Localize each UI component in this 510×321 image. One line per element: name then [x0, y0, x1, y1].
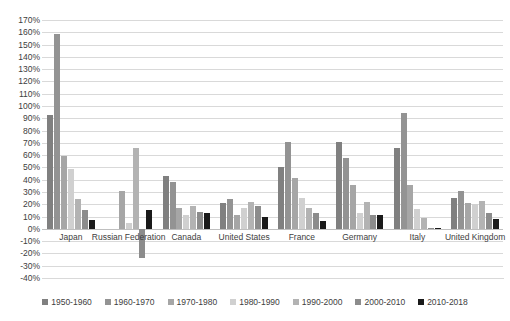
bar: [336, 142, 342, 229]
legend-swatch-icon: [418, 299, 424, 305]
legend-label: 1970-1980: [177, 297, 218, 307]
bar: [343, 158, 349, 229]
bar: [486, 213, 492, 229]
x-axis-category-label: Canada: [171, 231, 201, 243]
y-axis-tick-label: 130%: [0, 65, 40, 74]
bar: [183, 215, 189, 229]
bar: [435, 228, 441, 229]
y-axis-tick-label: 120%: [0, 77, 40, 86]
bar: [350, 185, 356, 229]
legend-item[interactable]: 1970-1980: [168, 297, 218, 307]
bar: [204, 213, 210, 229]
y-axis-tick-label: 90%: [0, 114, 40, 123]
legend-swatch-icon: [42, 299, 48, 305]
legend-item[interactable]: 1990-2000: [293, 297, 343, 307]
bar: [394, 148, 400, 229]
bar: [220, 203, 226, 229]
legend-item[interactable]: 1980-1990: [230, 297, 280, 307]
bar: [248, 202, 254, 229]
bar: [82, 210, 88, 228]
legend-label: 1980-1990: [239, 297, 280, 307]
bar: [176, 208, 182, 229]
y-axis-tick-label: 160%: [0, 28, 40, 37]
bar: [278, 167, 284, 228]
bar: [458, 191, 464, 229]
legend-swatch-icon: [355, 299, 361, 305]
bar: [451, 198, 457, 229]
bar: [47, 115, 53, 229]
bar: [377, 215, 383, 229]
bar: [54, 34, 60, 229]
x-axis-category-label: Russian Federation: [92, 231, 166, 243]
x-axis-category-label: Japan: [59, 231, 82, 243]
legend-item[interactable]: 1960-1970: [105, 297, 155, 307]
legend-item[interactable]: 2010-2018: [418, 297, 468, 307]
bar: [414, 209, 420, 229]
bar: [170, 182, 176, 229]
y-axis-tick-label: 70%: [0, 138, 40, 147]
bar: [75, 199, 81, 228]
y-axis-tick-label: 170%: [0, 16, 40, 25]
y-axis-tick-label: 110%: [0, 89, 40, 98]
y-axis-tick-label: -30%: [0, 261, 40, 270]
bar: [421, 218, 427, 229]
y-axis-tick-label: -40%: [0, 274, 40, 283]
bar: [119, 191, 125, 229]
bar: [241, 208, 247, 229]
bar: [68, 169, 74, 229]
bar: [364, 202, 370, 229]
y-axis-tick-label: 60%: [0, 151, 40, 160]
gridline: [42, 278, 504, 279]
legend-item[interactable]: 1950-1960: [42, 297, 92, 307]
y-axis-tick-label: 150%: [0, 40, 40, 49]
bar: [479, 201, 485, 229]
bar: [401, 113, 407, 228]
bar: [89, 220, 95, 229]
y-axis-tick-label: -10%: [0, 237, 40, 246]
bar-chart: 170%160%150%140%130%120%110%100%90%80%70…: [0, 0, 510, 321]
bar: [255, 206, 261, 229]
bar: [133, 148, 139, 229]
x-axis-category-label: Germany: [342, 231, 377, 243]
x-axis-category-label: United States: [219, 231, 270, 243]
x-axis-category-label: United Kingdom: [445, 231, 505, 243]
y-axis-tick-label: 140%: [0, 52, 40, 61]
x-axis-category-label: France: [289, 231, 315, 243]
bar: [227, 199, 233, 228]
y-axis-tick-labels: 170%160%150%140%130%120%110%100%90%80%70…: [0, 20, 40, 278]
y-axis-tick-label: 30%: [0, 188, 40, 197]
bar: [407, 185, 413, 229]
legend-label: 1990-2000: [302, 297, 343, 307]
y-axis-tick-label: 20%: [0, 200, 40, 209]
legend-label: 1950-1960: [51, 297, 92, 307]
y-axis-tick-label: 50%: [0, 163, 40, 172]
y-axis-tick-label: 0%: [0, 224, 40, 233]
bar: [357, 213, 363, 229]
bar: [465, 203, 471, 229]
bar: [493, 219, 499, 229]
bar: [313, 213, 319, 229]
bar: [472, 204, 478, 229]
y-axis-tick-label: 100%: [0, 102, 40, 111]
bar: [126, 223, 132, 229]
legend-swatch-icon: [293, 299, 299, 305]
y-axis-tick-label: 80%: [0, 126, 40, 135]
bar: [428, 228, 434, 229]
bar: [61, 156, 67, 228]
chart-legend: 1950-19601960-19701970-19801980-19901990…: [0, 297, 510, 307]
legend-swatch-icon: [168, 299, 174, 305]
legend-item[interactable]: 2000-2010: [355, 297, 405, 307]
bar: [299, 198, 305, 229]
y-axis-tick-label: -20%: [0, 249, 40, 258]
bar: [190, 206, 196, 229]
legend-label: 1960-1970: [114, 297, 155, 307]
x-axis-category-label: Italy: [410, 231, 426, 243]
bar: [197, 212, 203, 229]
x-axis-category-labels: JapanRussian FederationCanadaUnited Stat…: [42, 231, 504, 245]
bar: [370, 215, 376, 229]
bar: [146, 210, 152, 228]
legend-label: 2000-2010: [364, 297, 405, 307]
bar: [292, 178, 298, 228]
bar: [320, 221, 326, 228]
y-axis-tick-label: 10%: [0, 212, 40, 221]
